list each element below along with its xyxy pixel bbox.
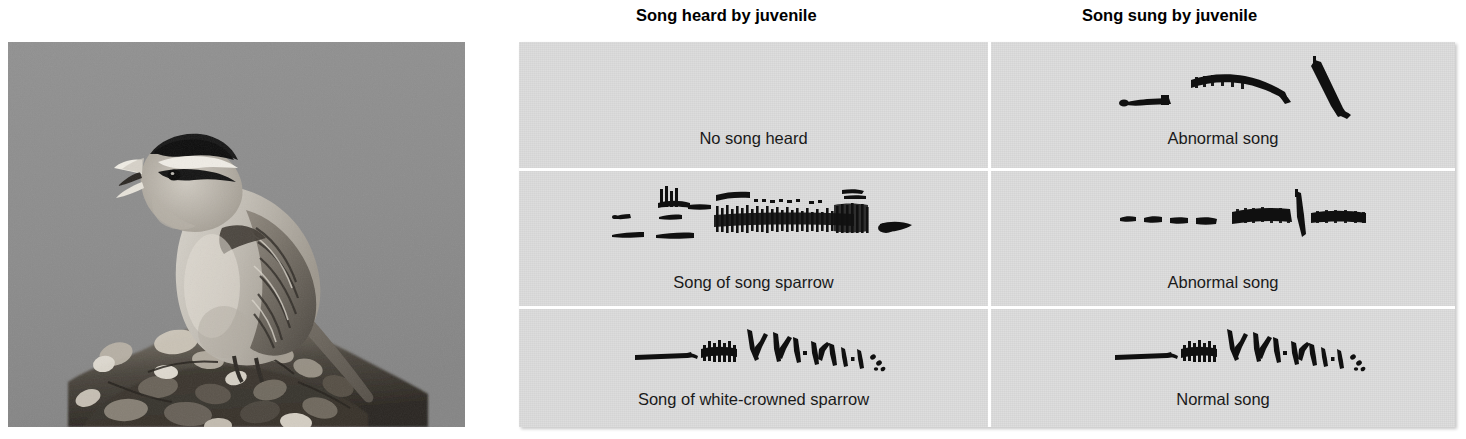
cell-label-row3-sung: Normal song: [991, 390, 1455, 409]
cell-label-row3-heard: Song of white-crowned sparrow: [519, 390, 988, 409]
cell-label-row1-sung: Abnormal song: [991, 129, 1455, 148]
spectrogram-row3-normal-song: [1109, 319, 1389, 381]
cell-row3-song-heard: Song of white-crowned sparrow: [519, 309, 988, 427]
cell-label-row2-sung: Abnormal song: [991, 273, 1455, 292]
song-learning-figure-panel: No song heard: [519, 42, 1455, 427]
sparrow-photograph: [8, 42, 465, 427]
sparrow-photo-illustration: [8, 42, 465, 427]
cell-row2-song-sung: Abnormal song: [991, 171, 1455, 306]
cell-row2-song-heard: Song of song sparrow: [519, 171, 988, 306]
column-header-song-heard: Song heard by juvenile: [636, 6, 817, 25]
cell-label-row2-heard: Song of song sparrow: [519, 273, 988, 292]
spectrogram-row1-abnormal-song: [1091, 52, 1391, 132]
cell-row3-song-sung: Normal song: [991, 309, 1455, 427]
spectrogram-row2-song-sparrow: [604, 179, 924, 255]
cell-label-row1-heard: No song heard: [519, 129, 988, 148]
spectrogram-row2-abnormal-song: [1116, 189, 1376, 249]
figure-grid: No song heard: [519, 42, 1455, 427]
spectrogram-row3-white-crowned-sparrow: [629, 319, 909, 381]
column-header-song-sung: Song sung by juvenile: [1082, 6, 1257, 25]
cell-row1-song-heard: No song heard: [519, 42, 988, 168]
cell-row1-song-sung: Abnormal song: [991, 42, 1455, 168]
